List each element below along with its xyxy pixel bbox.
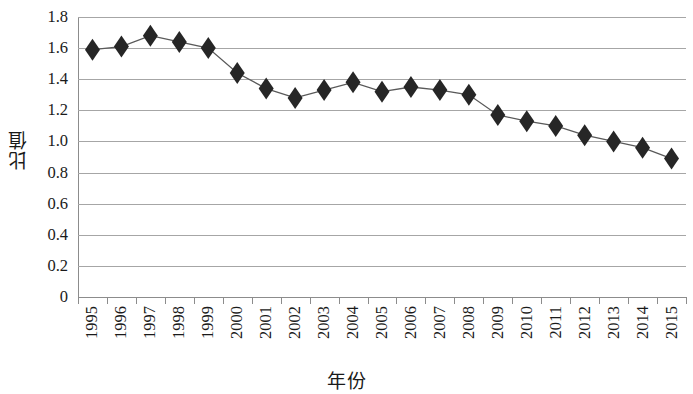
x-axis-tick bbox=[425, 297, 426, 304]
x-axis-tick-label: 1995 bbox=[84, 306, 101, 339]
y-axis-tick-label: 0.4 bbox=[47, 227, 68, 244]
plot-area bbox=[78, 17, 686, 297]
x-axis-tick-label: 2007 bbox=[432, 306, 449, 339]
data-point-marker bbox=[403, 76, 418, 98]
y-axis-tick-label: 1.4 bbox=[47, 71, 68, 88]
x-axis-tick bbox=[541, 297, 542, 304]
data-point-marker bbox=[201, 37, 216, 59]
x-axis-tick-label: 2000 bbox=[229, 306, 246, 339]
data-point-marker bbox=[461, 84, 476, 106]
x-axis-tick-label: 2009 bbox=[490, 306, 507, 339]
x-axis-tick-label: 2006 bbox=[403, 306, 420, 339]
x-axis-tick bbox=[599, 297, 600, 304]
data-point-marker bbox=[143, 25, 158, 47]
y-axis-title-label: 比值 bbox=[4, 130, 31, 170]
x-axis-tick bbox=[107, 297, 108, 304]
x-axis-tick-label: 2010 bbox=[519, 306, 536, 339]
data-point-marker bbox=[490, 104, 505, 126]
x-axis-tick bbox=[78, 297, 79, 304]
y-axis-title: 比值 bbox=[2, 0, 32, 300]
y-axis-tick-label: 0.2 bbox=[47, 258, 68, 275]
x-axis-tick bbox=[194, 297, 195, 304]
x-axis-tick bbox=[136, 297, 137, 304]
x-axis-tick bbox=[483, 297, 484, 304]
x-axis-tick bbox=[396, 297, 397, 304]
x-axis-tick bbox=[657, 297, 658, 304]
data-point-marker bbox=[519, 110, 534, 132]
x-axis-tick-label: 1997 bbox=[142, 306, 159, 339]
data-point-marker bbox=[85, 39, 100, 61]
x-axis-tick-label: 2002 bbox=[287, 306, 304, 339]
x-axis-tick-label: 1999 bbox=[200, 306, 217, 339]
data-point-marker bbox=[548, 115, 563, 137]
x-axis-title: 年份 bbox=[0, 366, 693, 393]
x-axis-tick-label: 2001 bbox=[258, 306, 275, 339]
data-point-marker bbox=[375, 81, 390, 103]
x-axis-tick bbox=[281, 297, 282, 304]
x-axis-ticks bbox=[78, 297, 686, 305]
x-axis-tick bbox=[252, 297, 253, 304]
chart-container: 比值 1.81.61.41.21.00.80.60.40.20 19951996… bbox=[0, 0, 693, 394]
data-point-marker bbox=[317, 79, 332, 101]
x-axis-tick bbox=[686, 297, 687, 304]
x-axis-tick bbox=[165, 297, 166, 304]
data-point-marker bbox=[114, 36, 129, 58]
y-axis-tick-label: 1.8 bbox=[47, 9, 68, 26]
data-point-marker bbox=[288, 87, 303, 109]
x-axis-tick-label: 2014 bbox=[635, 306, 652, 339]
x-axis-tick-label: 2005 bbox=[374, 306, 391, 339]
data-point-marker bbox=[432, 79, 447, 101]
x-axis-tick-label: 1996 bbox=[113, 306, 130, 339]
x-axis-tick bbox=[339, 297, 340, 304]
x-axis-title-label: 年份 bbox=[327, 370, 367, 392]
data-point-marker bbox=[635, 137, 650, 159]
data-point-marker bbox=[230, 62, 245, 84]
data-point-marker bbox=[346, 71, 361, 93]
data-point-marker bbox=[577, 124, 592, 146]
x-axis-tick bbox=[223, 297, 224, 304]
y-axis-tick-label: 1.0 bbox=[47, 133, 68, 150]
x-axis-tick bbox=[512, 297, 513, 304]
x-axis-tick-label: 2008 bbox=[461, 306, 478, 339]
x-axis-tick-label: 2011 bbox=[548, 306, 565, 338]
y-axis-tick-label: 1.6 bbox=[47, 40, 68, 57]
data-point-marker bbox=[606, 130, 621, 152]
data-point-marker bbox=[664, 148, 679, 170]
x-axis-tick-label: 2004 bbox=[345, 306, 362, 339]
data-point-marker bbox=[259, 78, 274, 100]
x-axis-tick-label: 2003 bbox=[316, 306, 333, 339]
x-axis-tick bbox=[628, 297, 629, 304]
y-axis-tick-label: 0 bbox=[60, 289, 68, 306]
x-axis-tick-label: 2013 bbox=[606, 306, 623, 339]
y-axis-tick-label: 0.8 bbox=[47, 164, 68, 181]
x-axis-tick bbox=[570, 297, 571, 304]
x-axis-tick bbox=[310, 297, 311, 304]
x-axis-tick-label: 2015 bbox=[664, 306, 681, 339]
data-point-marker bbox=[172, 31, 187, 53]
y-axis-tick-label: 0.6 bbox=[47, 195, 68, 212]
y-axis-tick-label: 1.2 bbox=[47, 102, 68, 119]
series-line-ratio bbox=[78, 17, 686, 297]
x-axis-tick bbox=[368, 297, 369, 304]
x-axis-tick-label: 2012 bbox=[577, 306, 594, 339]
x-axis-tick bbox=[454, 297, 455, 304]
x-axis-tick-label: 1998 bbox=[171, 306, 188, 339]
y-axis-tick-labels: 1.81.61.41.21.00.80.60.40.20 bbox=[30, 0, 72, 310]
x-axis-tick-labels: 1995199619971998199920002001200220032004… bbox=[78, 306, 686, 364]
